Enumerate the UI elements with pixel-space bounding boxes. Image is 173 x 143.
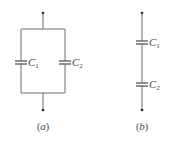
parallel-circuit-a: C1 C2 (a) xyxy=(15,12,83,133)
c2-label-b: C2 xyxy=(149,78,160,92)
caption-b: (b) xyxy=(136,120,148,133)
series-circuit-b: C1 C2 (b) xyxy=(136,12,160,133)
c2-label-a: C2 xyxy=(72,56,83,70)
c1-label-a: C1 xyxy=(28,56,39,70)
capacitor-diagrams: C1 C2 (a) C1 C2 (b) xyxy=(0,0,173,143)
c1-label-b: C1 xyxy=(149,36,160,50)
caption-a: (a) xyxy=(37,120,49,133)
bottom-terminal-a xyxy=(42,109,45,112)
bottom-terminal-b xyxy=(141,109,144,112)
